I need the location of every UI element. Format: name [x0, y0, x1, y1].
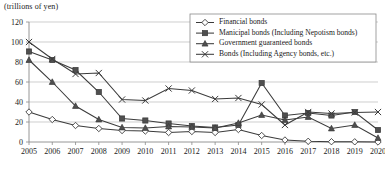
x-axis-tick-labels: 2005200620072008200920102011201220132014…	[21, 147, 385, 156]
y-tick-label: 60	[15, 78, 23, 87]
x-tick-label: 2018	[323, 147, 339, 156]
x-tick-label: 2005	[21, 147, 37, 156]
open-diamond-marker	[26, 109, 32, 115]
open-diamond-marker	[258, 132, 264, 138]
y-axis-tick-labels: 020406080100120	[11, 18, 23, 147]
legend-entry-label: Bonds (Including Agency bonds, etc.)	[219, 49, 335, 58]
solid-square-marker	[143, 118, 148, 123]
y-tick-label: 100	[11, 38, 23, 47]
x-tick-label: 2006	[44, 147, 60, 156]
legend-entry-label: Government guaranteed bonds	[219, 38, 312, 47]
legend-entry-label: Financial bonds	[219, 17, 267, 26]
solid-square-marker	[202, 31, 207, 36]
chart-plot-area: 020406080100120 200520062007200820092010…	[0, 0, 385, 173]
solid-triangle-marker	[352, 122, 358, 128]
solid-triangle-marker	[375, 135, 381, 141]
y-tick-label: 40	[15, 98, 23, 107]
x-tick-label: 2013	[207, 147, 223, 156]
x-tick-label: 2007	[68, 147, 84, 156]
x-tick-label: 2019	[347, 147, 363, 156]
x-tick-label: 2009	[114, 147, 130, 156]
open-diamond-marker	[328, 139, 334, 145]
cross-marker	[282, 122, 288, 128]
series-line-2	[29, 52, 378, 131]
x-tick-label: 2011	[161, 147, 177, 156]
x-tick-label: 2012	[184, 147, 200, 156]
open-diamond-marker	[305, 138, 311, 144]
x-tick-label: 2008	[91, 147, 107, 156]
solid-square-marker	[96, 89, 101, 94]
bond-issuance-line-chart: (trillions of yen) 020406080100120 20052…	[0, 0, 385, 173]
x-tick-label: 2010	[137, 147, 153, 156]
solid-triangle-marker	[96, 116, 102, 122]
solid-square-marker	[26, 49, 31, 54]
x-tick-label: 2014	[230, 147, 246, 156]
x-tick-label: 2020	[370, 147, 385, 156]
legend-entry-label: Manicipal bonds (Including Nepotism bond…	[219, 28, 358, 37]
y-tick-label: 20	[15, 118, 23, 127]
y-tick-label: 80	[15, 58, 23, 67]
open-diamond-marker	[96, 125, 102, 131]
open-diamond-marker	[72, 122, 78, 128]
x-tick-label: 2015	[254, 147, 270, 156]
solid-square-marker	[50, 57, 55, 62]
x-tick-label: 2016	[277, 147, 293, 156]
open-diamond-marker	[165, 129, 171, 135]
solid-square-marker	[375, 127, 380, 132]
x-tick-label: 2017	[300, 147, 316, 156]
solid-square-marker	[259, 80, 264, 85]
y-tick-label: 0	[19, 138, 23, 147]
open-diamond-marker	[352, 139, 358, 145]
legend: Financial bondsManicipal bonds (Includin…	[190, 14, 376, 62]
solid-triangle-marker	[26, 57, 32, 63]
solid-triangle-marker	[259, 112, 265, 118]
y-tick-label: 120	[11, 18, 23, 27]
solid-square-marker	[119, 116, 124, 121]
